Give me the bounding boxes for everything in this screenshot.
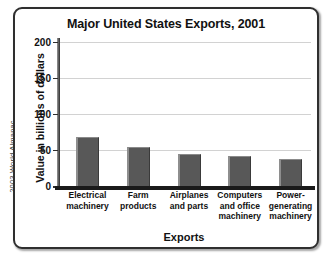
y-tick-mark (53, 150, 58, 152)
y-tick-mark (53, 78, 58, 80)
plot-area: 050100150200 (57, 31, 311, 186)
bar (76, 137, 99, 186)
plot-inner: 050100150200 (57, 31, 311, 186)
bar (228, 156, 251, 186)
category-label: Power-generatingmachinery (261, 190, 321, 222)
y-tick-mark (53, 42, 58, 44)
chart-title: Major United States Exports, 2001 (15, 17, 317, 31)
bar (127, 147, 150, 186)
gridline (60, 114, 311, 115)
y-tick-label: 50 (40, 144, 51, 155)
y-tick-label: 100 (34, 108, 51, 119)
gridline (60, 42, 311, 43)
category-label-line: Power- (261, 190, 321, 201)
gridline (60, 78, 311, 79)
bar (279, 159, 302, 186)
y-tick-label: 0 (45, 181, 51, 192)
y-axis-spine (57, 38, 60, 186)
category-label-line: generating (261, 201, 321, 212)
y-tick-label: 150 (34, 72, 51, 83)
chart-frame: Major United States Exports, 2001 Value … (13, 7, 319, 249)
bar (178, 154, 201, 186)
x-axis-title: Exports (57, 231, 311, 243)
y-tick-label: 200 (34, 36, 51, 47)
category-label-line: machinery (261, 211, 321, 222)
x-axis-category-labels: ElectricalmachineryFarmproductsAirplanes… (57, 190, 311, 235)
y-tick-mark (53, 114, 58, 116)
